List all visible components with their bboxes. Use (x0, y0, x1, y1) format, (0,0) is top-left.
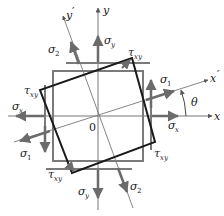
tau-xy-right-label: τ xy (154, 147, 169, 162)
svg-text:2: 2 (55, 50, 59, 58)
y-prime-axis-label: y ′ (65, 5, 75, 22)
svg-text:xy: xy (30, 91, 39, 99)
svg-text:2: 2 (137, 187, 141, 195)
svg-text:xy: xy (160, 154, 169, 162)
sigma-x-right-label: σ x (168, 119, 179, 134)
sigma-y-top-label: σ y (104, 34, 116, 49)
x-axis-label: x (214, 110, 221, 123)
origin-label: 0 (89, 121, 96, 134)
tau-xy-left-label: τ xy (24, 84, 39, 99)
tau-xy-top-right-label: τ xy (128, 46, 143, 61)
svg-text:x: x (210, 72, 217, 85)
sigma-1-left-label: σ 1 (20, 147, 31, 162)
sigma-1-right-label: σ 1 (160, 73, 171, 88)
sigma-2-bottom-label: σ 2 (130, 180, 141, 195)
svg-text:x: x (175, 126, 179, 134)
svg-text:xy: xy (134, 53, 143, 61)
tau-xy-bottom-label: τ xy (48, 168, 63, 183)
stress-transformation-diagram: x y x ′ y ′ 0 θ σ y σ y σ x σ x σ 1 σ 1 … (0, 0, 224, 216)
svg-text:y: y (84, 192, 90, 200)
theta-arc (181, 90, 186, 116)
x-prime-axis-label: x ′ (210, 68, 220, 85)
sigma-y-bottom-label: σ y (78, 185, 90, 200)
svg-text:xy: xy (54, 175, 63, 183)
theta-label: θ (191, 96, 198, 109)
sigma-2-top-label: σ 2 (48, 43, 59, 58)
svg-text:x: x (19, 107, 23, 115)
svg-text:1: 1 (167, 80, 171, 88)
y-axis-label: y (102, 4, 110, 17)
svg-text:′: ′ (217, 68, 220, 81)
sigma-x-left-label: σ x (12, 100, 23, 115)
svg-text:′: ′ (72, 5, 75, 18)
svg-text:y: y (110, 41, 116, 49)
svg-text:1: 1 (27, 154, 31, 162)
